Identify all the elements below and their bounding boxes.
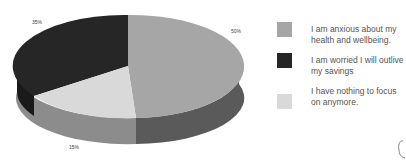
legend-swatch (277, 22, 292, 37)
label-35: 35% (32, 19, 42, 25)
scribble-mark (396, 138, 406, 160)
legend-label: I am anxious about my health and wellbei… (311, 24, 406, 45)
legend-item-nothing: I have nothing to focus on anymore. (270, 84, 406, 115)
label-15: 15% (69, 144, 79, 150)
legend-swatch (277, 53, 292, 68)
legend-item-worried: I am worried I will outlive my savings (270, 53, 406, 84)
pie-chart: 35% 50% 15% (0, 0, 260, 160)
label-50: 50% (231, 28, 241, 34)
legend-item-anxious: I am anxious about my health and wellbei… (270, 22, 406, 53)
legend-label: I have nothing to focus on anymore. (311, 86, 406, 107)
legend-label: I am worried I will outlive my savings (311, 55, 406, 76)
chart-legend: I am anxious about my health and wellbei… (270, 22, 406, 115)
legend-swatch (277, 94, 292, 109)
